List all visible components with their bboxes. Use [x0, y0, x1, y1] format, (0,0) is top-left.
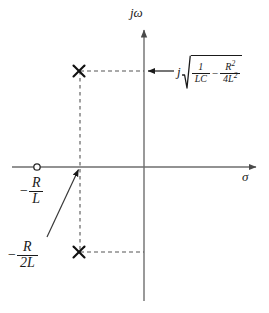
- radicand-term-2-denominator-exponent: 2: [234, 70, 238, 79]
- zero-annotation-minus-r-over-l: −RL: [20, 176, 43, 206]
- radicand-operator: −: [211, 67, 219, 79]
- radicand-term-2-numerator-exponent: 2: [231, 59, 235, 68]
- sigma-axis-label: σ: [242, 170, 248, 183]
- radicand-term-1: 1 LC: [192, 62, 210, 84]
- radicand: 1 LC − R2 4L2: [191, 55, 243, 89]
- zero-marker-circle: [34, 164, 40, 170]
- zero-annotation-numerator: R: [29, 176, 44, 192]
- radicand-term-2: R2 4L2: [220, 62, 240, 84]
- damping-annotation-fraction: R2L: [17, 240, 38, 270]
- jomega-axis-label: jω: [130, 6, 143, 19]
- zero-annotation-fraction: RL: [29, 176, 44, 206]
- square-root-icon: 1 LC − R2 4L2: [182, 55, 243, 89]
- zero-annotation-minus-sign: −: [20, 184, 29, 198]
- damping-leader-arrow: [47, 170, 79, 238]
- damping-annotation-numerator: R: [17, 240, 38, 256]
- plot-canvas: [0, 0, 269, 313]
- radicand-term-2-denominator: 4L2: [220, 74, 240, 85]
- pole-zero-figure: jω σ −RL −R2L j 1 LC − R2: [0, 0, 269, 313]
- radicand-term-2-denominator-base: 4L: [223, 73, 234, 84]
- natural-frequency-annotation: j 1 LC − R2 4L2: [177, 55, 242, 89]
- damping-annotation-minus-sign: −: [8, 248, 17, 262]
- radical-sign-glyph: [182, 55, 191, 89]
- damping-annotation-minus-r-over-2l: −R2L: [8, 240, 38, 270]
- damping-annotation-denominator: 2L: [17, 256, 38, 271]
- radicand-term-1-denominator: LC: [192, 74, 210, 85]
- zero-annotation-denominator: L: [29, 192, 44, 207]
